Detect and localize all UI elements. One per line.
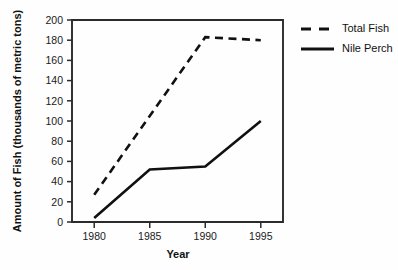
chart-page: 020406080100120140160180200 198019851990… — [0, 0, 398, 270]
legend-label-total-fish: Total Fish — [342, 22, 389, 34]
y-tick-label: 20 — [51, 196, 63, 208]
series-line-nile-perch — [94, 121, 261, 218]
axis-frame — [72, 20, 283, 222]
y-tick-label: 200 — [45, 14, 63, 26]
y-tick-label: 140 — [45, 74, 63, 86]
chart-legend: Total FishNile Perch — [301, 22, 393, 54]
x-axis-tick-labels: 1980198519901995 — [83, 230, 273, 242]
y-tick-label: 80 — [51, 135, 63, 147]
y-tick-label: 180 — [45, 34, 63, 46]
y-axis-title: Amount of Fish (thousands of metric tons… — [11, 9, 23, 232]
plot-frame — [72, 20, 283, 222]
y-tick-label: 160 — [45, 54, 63, 66]
y-tick-label: 40 — [51, 175, 63, 187]
x-tick-label: 1990 — [194, 230, 218, 242]
legend-label-nile-perch: Nile Perch — [342, 42, 393, 54]
y-tick-label: 100 — [45, 115, 63, 127]
y-tick-label: 0 — [57, 216, 63, 228]
x-axis-title: Year — [166, 248, 190, 260]
x-tick-label: 1980 — [83, 230, 107, 242]
fish-catch-line-chart: 020406080100120140160180200 198019851990… — [0, 0, 398, 270]
x-tick-label: 1995 — [249, 230, 273, 242]
data-series-group — [94, 37, 261, 218]
x-tick-label: 1985 — [138, 230, 162, 242]
y-axis-tick-labels: 020406080100120140160180200 — [45, 14, 63, 228]
series-line-total-fish — [94, 37, 261, 195]
y-tick-label: 120 — [45, 95, 63, 107]
y-tick-label: 60 — [51, 155, 63, 167]
